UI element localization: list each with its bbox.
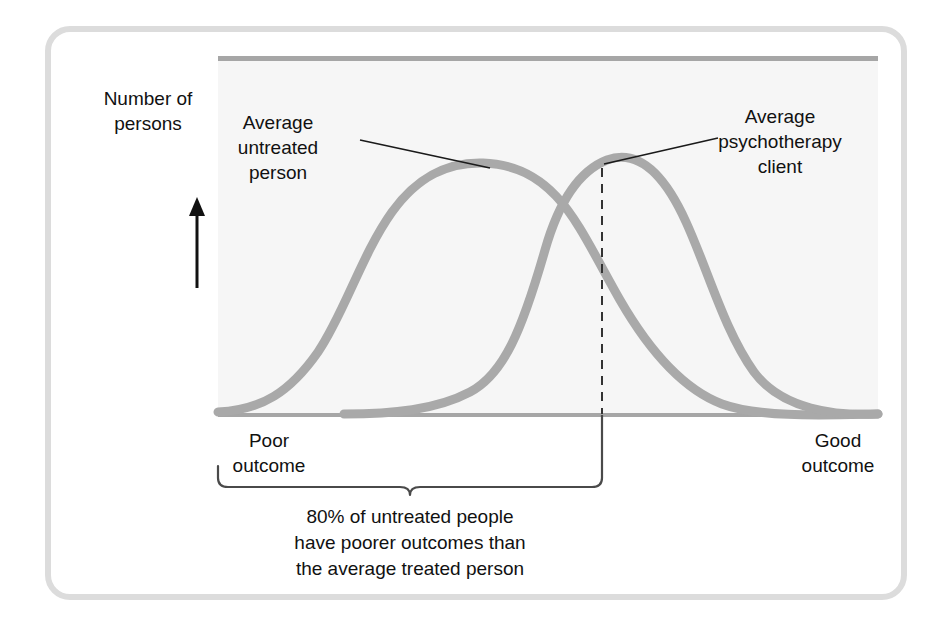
x-axis-label-poor: Poor outcome — [213, 428, 325, 478]
annotation-label-client: Average psychotherapy client — [690, 104, 870, 179]
annotation-label-untreated: Average untreated person — [198, 110, 358, 185]
figure-container: Number of persons Average untreated pers… — [0, 0, 946, 624]
y-axis-arrow-icon — [189, 197, 205, 288]
figure-caption: 80% of untreated people have poorer outc… — [229, 504, 591, 582]
x-axis-label-good: Good outcome — [782, 428, 894, 478]
